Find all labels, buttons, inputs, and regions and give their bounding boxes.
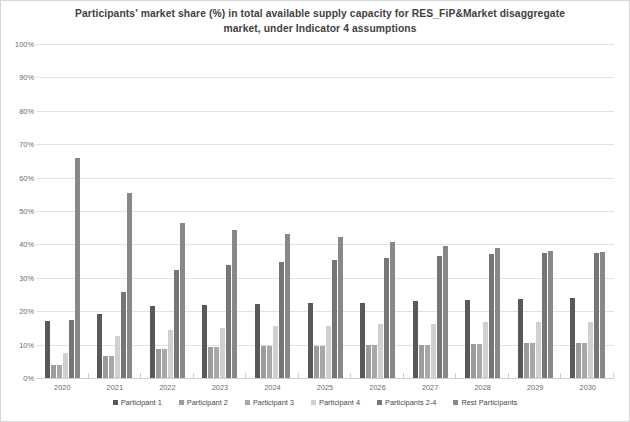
bar-2021-participant-3[interactable] <box>109 356 114 378</box>
bar-2026-rest-participants[interactable] <box>390 242 395 378</box>
bar-2030-rest-participants[interactable] <box>600 252 605 378</box>
legend-item-rest-participants[interactable]: Rest Participants <box>453 398 517 407</box>
bar-2028-participant-1[interactable] <box>465 300 470 378</box>
x-axis: 2020202120222023202420252026202720282029… <box>36 379 614 395</box>
x-tick-label-2027: 2027 <box>404 379 457 395</box>
chart-title-line-2: market, under Indicator 4 assumptions <box>223 23 416 34</box>
bar-2030-participant-3[interactable] <box>582 343 587 378</box>
bar-2029-participants-2-4[interactable] <box>542 253 547 378</box>
bar-2024-participant-4[interactable] <box>273 326 278 378</box>
bar-2025-rest-participants[interactable] <box>338 237 343 378</box>
bar-2028-participant-3[interactable] <box>477 344 482 378</box>
bar-2027-participant-4[interactable] <box>431 324 436 378</box>
bar-2025-participant-2[interactable] <box>314 346 319 378</box>
bar-group-2021 <box>89 44 142 378</box>
bar-2026-participants-2-4[interactable] <box>384 258 389 378</box>
bar-2022-participant-4[interactable] <box>168 330 173 378</box>
bar-2030-participant-1[interactable] <box>570 298 575 378</box>
x-tick-label-2028: 2028 <box>456 379 509 395</box>
x-tick-label-2022: 2022 <box>141 379 194 395</box>
bar-2027-participant-3[interactable] <box>425 345 430 378</box>
bar-2024-participant-3[interactable] <box>267 346 272 378</box>
bar-2023-rest-participants[interactable] <box>232 230 237 378</box>
bar-2025-participants-2-4[interactable] <box>332 260 337 378</box>
x-tick-label-2030: 2030 <box>561 379 614 395</box>
bar-2029-participant-3[interactable] <box>530 343 535 378</box>
y-axis: 100%90%80%70%60%50%40%30%20%10%0% <box>0 44 34 378</box>
bar-2021-participant-4[interactable] <box>115 336 120 378</box>
bar-2024-participant-1[interactable] <box>255 304 260 378</box>
bar-2026-participant-4[interactable] <box>378 324 383 378</box>
bar-2028-participant-2[interactable] <box>471 344 476 378</box>
y-tick-label-40%: 40% <box>4 240 34 249</box>
legend-item-participant-2[interactable]: Participant 2 <box>179 398 228 407</box>
bar-2023-participant-4[interactable] <box>220 328 225 378</box>
bar-2030-participants-2-4[interactable] <box>594 253 599 378</box>
plot-area <box>36 44 614 378</box>
x-tick-label-2029: 2029 <box>509 379 562 395</box>
bar-2026-participant-1[interactable] <box>360 303 365 378</box>
bar-2024-participants-2-4[interactable] <box>279 262 284 378</box>
bar-2022-participant-2[interactable] <box>156 349 161 378</box>
legend-item-participant-1[interactable]: Participant 1 <box>113 398 162 407</box>
bar-2028-participant-4[interactable] <box>483 322 488 378</box>
bar-2029-participant-2[interactable] <box>524 343 529 378</box>
x-tick-label-2020: 2020 <box>36 379 89 395</box>
bar-2020-participant-3[interactable] <box>57 365 62 378</box>
legend-swatch-icon <box>179 400 184 405</box>
bar-2028-rest-participants[interactable] <box>495 248 500 378</box>
x-tick-label-2025: 2025 <box>299 379 352 395</box>
bar-2029-participant-1[interactable] <box>518 299 523 378</box>
bar-2027-participant-1[interactable] <box>413 301 418 378</box>
legend-item-participants-2-4[interactable]: Participants 2-4 <box>377 398 436 407</box>
bar-2024-participant-2[interactable] <box>261 346 266 378</box>
legend-item-label: Rest Participants <box>461 398 517 407</box>
bar-2027-participants-2-4[interactable] <box>437 256 442 378</box>
bar-2029-participant-4[interactable] <box>536 322 541 378</box>
bar-2025-participant-3[interactable] <box>320 346 325 378</box>
bar-2026-participant-2[interactable] <box>366 345 371 378</box>
bar-2021-rest-participants[interactable] <box>127 193 132 378</box>
bar-2022-participants-2-4[interactable] <box>174 270 179 378</box>
bar-2020-participant-1[interactable] <box>45 321 50 378</box>
bar-2027-rest-participants[interactable] <box>443 246 448 378</box>
bar-2020-participants-2-4[interactable] <box>69 320 74 378</box>
y-tick-label-50%: 50% <box>4 207 34 216</box>
y-tick-label-100%: 100% <box>4 40 34 49</box>
bar-2028-participants-2-4[interactable] <box>489 254 494 378</box>
bar-group-2028 <box>456 44 509 378</box>
legend-item-label: Participant 4 <box>319 398 360 407</box>
bar-2021-participants-2-4[interactable] <box>121 292 126 378</box>
bar-2021-participant-2[interactable] <box>103 356 108 378</box>
bar-2025-participant-4[interactable] <box>326 326 331 378</box>
bar-2024-rest-participants[interactable] <box>285 234 290 378</box>
bar-2025-participant-1[interactable] <box>308 303 313 378</box>
chart-title: Participants' market share (%) in total … <box>60 6 580 36</box>
x-tick-label-2026: 2026 <box>351 379 404 395</box>
bar-2027-participant-2[interactable] <box>419 345 424 378</box>
bar-2022-participant-1[interactable] <box>150 306 155 378</box>
bar-2023-participant-1[interactable] <box>202 305 207 378</box>
legend-item-participant-3[interactable]: Participant 3 <box>245 398 294 407</box>
bar-2020-rest-participants[interactable] <box>75 158 80 378</box>
bar-2023-participant-3[interactable] <box>214 347 219 378</box>
bar-2030-participant-4[interactable] <box>588 322 593 378</box>
legend-swatch-icon <box>245 400 250 405</box>
bar-2020-participant-2[interactable] <box>51 365 56 378</box>
bar-2020-participant-4[interactable] <box>63 353 68 378</box>
bar-2026-participant-3[interactable] <box>372 345 377 378</box>
legend-item-participant-4[interactable]: Participant 4 <box>311 398 360 407</box>
bar-2029-rest-participants[interactable] <box>548 251 553 378</box>
bar-2023-participant-2[interactable] <box>208 347 213 378</box>
bar-2022-rest-participants[interactable] <box>180 223 185 378</box>
bar-2021-participant-1[interactable] <box>97 314 102 378</box>
bar-group-2023 <box>194 44 247 378</box>
legend-swatch-icon <box>311 400 316 405</box>
bar-2022-participant-3[interactable] <box>162 349 167 378</box>
bar-group-2030 <box>561 44 614 378</box>
bar-group-2027 <box>404 44 457 378</box>
bar-2030-participant-2[interactable] <box>576 343 581 378</box>
bar-2023-participants-2-4[interactable] <box>226 265 231 378</box>
bar-group-2022 <box>141 44 194 378</box>
x-tick-label-2021: 2021 <box>89 379 142 395</box>
